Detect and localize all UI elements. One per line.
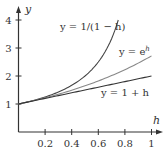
plot-area: hy0.20.40.60.811234y = 1/(1 − h)y = ehy … [5, 3, 163, 149]
y-tick-label: 4 [5, 15, 11, 26]
y-tick-label: 2 [5, 71, 11, 82]
series-label-linear: y = 1 + h [100, 87, 149, 98]
series-label-exp: y = eh [118, 45, 150, 57]
y-axis-label: y [24, 3, 32, 16]
x-tick-label: 0.8 [117, 138, 133, 149]
chart: hy0.20.40.60.811234y = 1/(1 − h)y = ehy … [0, 0, 163, 156]
x-axis-label: h [153, 114, 160, 127]
x-tick-label: 0.6 [90, 138, 106, 149]
y-tick-label: 1 [5, 99, 11, 110]
series-label-reciprocal: y = 1/(1 − h) [59, 21, 126, 32]
x-tick-label: 1 [148, 138, 154, 149]
y-axis-arrow-icon [16, 6, 21, 13]
y-tick-label: 3 [5, 43, 11, 54]
x-axis-arrow-icon [156, 130, 163, 135]
x-tick-label: 0.4 [64, 138, 80, 149]
x-tick-label: 0.2 [37, 138, 53, 149]
